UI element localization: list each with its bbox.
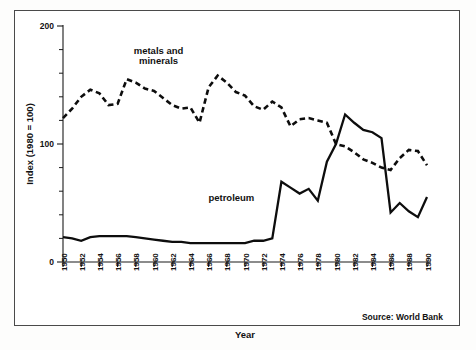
x-tick-label-1950: 1950 xyxy=(60,253,69,271)
x-tick-label-1974: 1974 xyxy=(278,253,287,271)
x-tick-label-1978: 1978 xyxy=(314,253,323,271)
x-tick-label-1972: 1972 xyxy=(260,253,269,271)
x-axis-title: Year xyxy=(235,329,255,340)
x-tick-label-1966: 1966 xyxy=(205,253,214,271)
series-line-metals-and-minerals xyxy=(63,76,427,170)
x-tick-label-1980: 1980 xyxy=(333,253,342,271)
series-label-petroleum: petroleum xyxy=(208,192,254,203)
x-tick-label-1982: 1982 xyxy=(351,253,360,271)
x-tick-label-1988: 1988 xyxy=(405,253,414,271)
x-tick-label-1970: 1970 xyxy=(242,253,251,271)
x-tick-label-1960: 1960 xyxy=(151,253,160,271)
y-tick-label-200: 200 xyxy=(40,21,54,31)
chart-figure: 0100200195019521954195619581960196219641… xyxy=(0,0,476,350)
x-tick-label-1984: 1984 xyxy=(369,253,378,271)
x-tick-label-1958: 1958 xyxy=(132,253,141,271)
series-label-metals-line2: minerals xyxy=(139,55,178,66)
chart-plot-area: 0100200195019521954195619581960196219641… xyxy=(0,0,476,350)
x-tick-label-1986: 1986 xyxy=(387,253,396,271)
y-tick-label-0: 0 xyxy=(49,257,54,267)
x-tick-label-1976: 1976 xyxy=(296,253,305,271)
x-tick-label-1954: 1954 xyxy=(96,253,105,271)
x-tick-label-1964: 1964 xyxy=(187,253,196,271)
series-line-petroleum xyxy=(63,115,427,244)
y-tick-label-100: 100 xyxy=(40,139,54,149)
source-note: Source: World Bank xyxy=(362,312,443,322)
x-tick-label-1956: 1956 xyxy=(114,253,123,271)
x-tick-label-1968: 1968 xyxy=(223,253,232,271)
x-tick-label-1990: 1990 xyxy=(424,253,433,271)
x-tick-label-1962: 1962 xyxy=(169,253,178,271)
x-tick-label-1952: 1952 xyxy=(78,253,87,271)
y-axis-title: Index (1980 = 100) xyxy=(24,103,35,185)
